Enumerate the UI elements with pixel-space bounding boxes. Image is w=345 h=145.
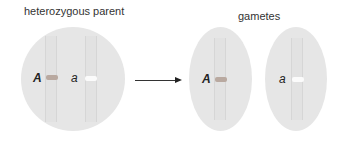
gamete-allele-label-A: A (202, 72, 211, 86)
gamete-band-a (292, 77, 304, 82)
allele-band-a (85, 76, 97, 81)
parent-label: heterozygous parent (24, 5, 124, 17)
gamete-allele-label-a: a (279, 72, 286, 86)
arrow-line (135, 80, 177, 81)
gametes-label: gametes (238, 10, 280, 22)
allele-label-a: a (71, 71, 78, 85)
allele-label-A: A (33, 71, 42, 85)
gamete-band-A (215, 77, 227, 82)
arrow-right-icon (175, 77, 182, 83)
allele-band-A (46, 75, 58, 80)
